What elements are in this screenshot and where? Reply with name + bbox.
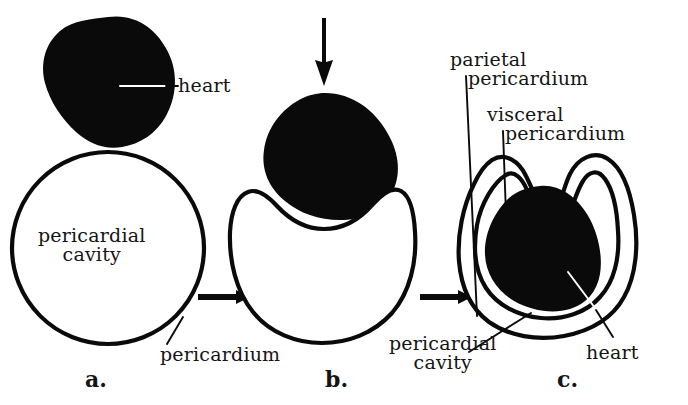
label-visceral-pericardium: visceral pericardium xyxy=(487,105,625,143)
label-pericardial-cavity-a: pericardial cavity xyxy=(38,226,145,264)
panel-letter-a: a. xyxy=(85,366,107,392)
label-heart-a: heart xyxy=(178,76,231,95)
label-parietal-pericardium: parietal pericardium xyxy=(450,50,588,88)
panel-a-group xyxy=(12,16,204,344)
panel-letter-c: c. xyxy=(557,366,578,392)
label-pericardial-cavity-c: pericardial cavity xyxy=(389,334,496,372)
heart-blob-a xyxy=(43,16,175,147)
label-pericardium-a: pericardium xyxy=(160,345,280,364)
panel-b-group xyxy=(230,18,415,343)
label-heart-c: heart xyxy=(586,343,639,362)
pericardium-development-figure: heart pericardial cavity pericardium par… xyxy=(0,0,688,405)
panel-letter-b: b. xyxy=(325,366,348,392)
push-down-arrow xyxy=(315,18,333,86)
